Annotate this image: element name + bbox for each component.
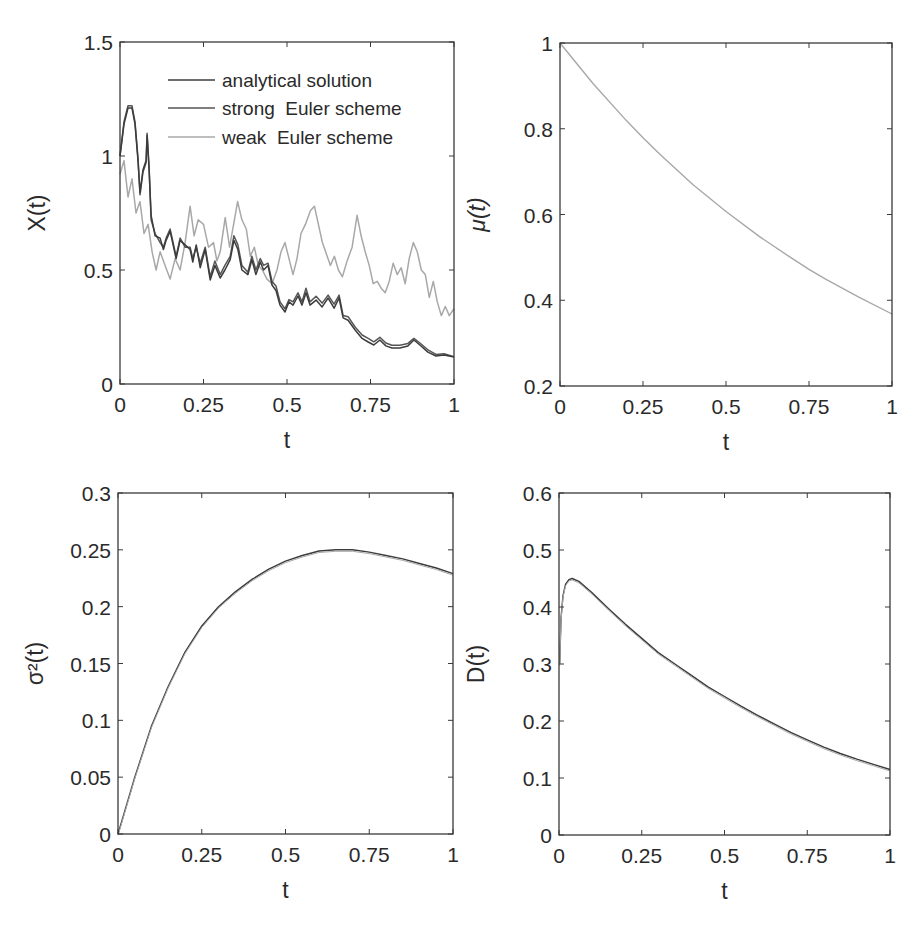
axes-box [559,493,890,835]
series-line [560,43,892,314]
y-tick-label: 0.05 [70,766,111,789]
series-line [120,161,454,316]
legend-label-weak: weak Euler scheme [221,127,393,148]
panel-sigma2: 00.250.50.75100.050.10.150.20.250.3 t σ²… [22,482,459,903]
x-tick-label: 0 [553,844,565,867]
y-tick-label: 0.5 [523,539,552,562]
y-tick-label: 1 [101,145,113,168]
y-tick-label: 0 [99,823,111,846]
x-tick-label: 0.25 [623,395,664,418]
x-tick-label: 0.25 [621,844,662,867]
panel-d: 00.250.50.75100.10.20.30.40.50.6 t D(t) [463,482,896,904]
figure: 00.250.50.75100.511.5 t X(t) analytical … [0,0,918,932]
panel-x: 00.250.50.75100.511.5 t X(t) analytical … [24,31,460,453]
x-axis-label: t [284,427,291,453]
y-tick-label: 0 [540,824,552,847]
y-axis-label: X(t) [24,194,50,231]
legend-label-analytical: analytical solution [222,70,372,91]
x-tick-label: 1 [447,843,459,866]
y-tick-label: 0.5 [84,259,113,282]
y-axis-label: D(t) [463,645,489,683]
series-layer [118,550,453,836]
series-layer [560,579,890,772]
y-tick-label: 0.4 [524,289,554,312]
x-tick-label: 1 [884,844,896,867]
x-axis-label: t [723,429,730,455]
axes-box [118,493,453,834]
y-tick-label: 0.25 [70,539,111,562]
x-tick-label: 0.25 [181,843,222,866]
y-tick-label: 0.2 [82,596,111,619]
y-axis-label: σ²(t) [22,642,48,686]
ticks: 00.250.50.75100.050.10.150.20.250.3 [70,482,459,866]
y-tick-label: 0.8 [524,118,553,141]
y-axis-label: μ(t) [464,197,490,232]
x-tick-label: 0.75 [787,844,828,867]
series-line [118,551,453,835]
x-axis-label: t [282,877,289,903]
x-tick-label: 0.5 [711,395,740,418]
y-tick-label: 0 [101,373,113,396]
x-tick-label: 0.75 [349,843,390,866]
series-line [560,579,890,770]
axes-box [560,43,892,386]
y-tick-label: 0.1 [82,709,111,732]
x-tick-label: 0 [112,843,124,866]
y-tick-label: 0.6 [524,204,553,227]
y-tick-label: 0.1 [523,767,552,790]
x-tick-label: 0.5 [271,843,300,866]
y-tick-label: 0.15 [70,653,111,676]
panel-mu: 00.250.50.7510.20.40.60.81 t μ(t) [464,32,898,455]
y-tick-label: 0.6 [523,482,552,505]
x-tick-label: 0 [554,395,566,418]
y-tick-label: 0.3 [82,482,111,505]
series-line [118,550,453,834]
x-axis-label: t [721,878,728,904]
y-tick-label: 0.4 [523,596,553,619]
x-tick-label: 1 [448,393,460,416]
x-tick-label: 0.75 [789,395,830,418]
ticks: 00.250.50.7510.20.40.60.81 [524,32,898,418]
legend-label-strong: strong Euler scheme [222,98,402,119]
x-tick-label: 0.5 [710,844,739,867]
y-tick-label: 0.3 [523,653,552,676]
x-tick-label: 0 [114,393,126,416]
x-tick-label: 0.25 [183,393,224,416]
series-layer [560,43,892,314]
x-tick-label: 0.5 [272,393,301,416]
legend: analytical solution strong Euler scheme … [168,70,402,148]
ticks: 00.250.50.75100.10.20.30.40.50.6 [523,482,896,867]
x-tick-label: 0.75 [350,393,391,416]
y-tick-label: 1.5 [84,31,113,54]
y-tick-label: 0.2 [523,710,552,733]
axes-box [120,42,454,384]
y-tick-label: 1 [541,32,553,55]
y-tick-label: 0.2 [524,375,553,398]
x-tick-label: 1 [886,395,898,418]
